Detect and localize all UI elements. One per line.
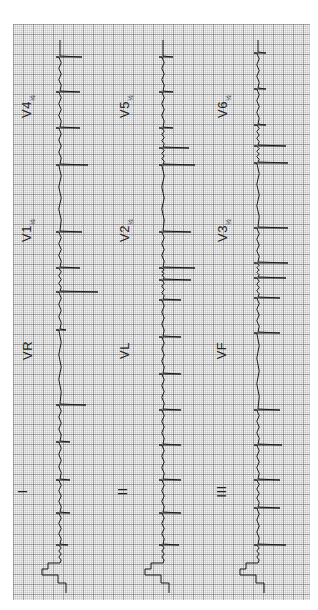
lead-gain-marker: ½: [29, 95, 36, 101]
lead-label-iii: III: [214, 485, 229, 497]
lead-label-v1: V1½: [19, 219, 36, 242]
lead-gain-marker: ½: [127, 219, 134, 225]
ecg-trace-column-2: [145, 40, 195, 593]
ecg-trace-column-1: [42, 40, 98, 593]
lead-label-vr: VR: [20, 341, 35, 360]
lead-label-ii: II: [115, 487, 130, 495]
lead-gain-marker: ½: [29, 219, 36, 225]
lead-label-v2: V2½: [117, 219, 134, 242]
lead-gain-marker: ½: [225, 219, 232, 225]
lead-label-v4: V4½: [19, 95, 36, 118]
lead-label-v6: V6½: [215, 95, 232, 118]
lead-gain-marker: ½: [225, 95, 232, 101]
lead-label-v3: V3½: [215, 219, 232, 242]
lead-label-v5: V5½: [117, 95, 134, 118]
lead-label-vf: VF: [214, 342, 229, 360]
lead-label-i: I: [15, 489, 30, 493]
ecg-traces: [0, 0, 318, 610]
lead-gain-marker: ½: [127, 95, 134, 101]
ecg-trace-column-3: [240, 40, 288, 593]
lead-label-vl: VL: [117, 342, 132, 359]
